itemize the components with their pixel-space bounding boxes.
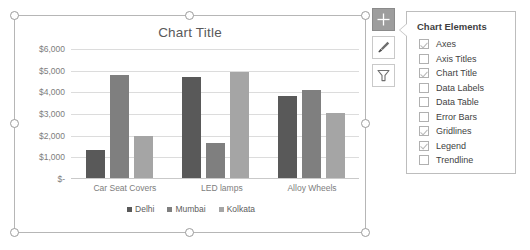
y-axis-tick-label: $3,000 [39, 109, 65, 119]
chart-object[interactable]: Chart Title $6,000$5,000$4,000$3,000$2,0… [14, 15, 366, 233]
bar-group [86, 49, 153, 178]
y-axis[interactable]: $6,000$5,000$4,000$3,000$2,000$1,000$- [15, 49, 69, 179]
chart-elements-button[interactable] [372, 8, 395, 31]
panel-callout-pointer [400, 24, 407, 36]
chart-element-label: Axes [436, 39, 456, 49]
x-axis-line [71, 178, 359, 179]
resize-handle-top-center[interactable] [185, 11, 194, 20]
resize-handle-top-left[interactable] [10, 11, 19, 20]
legend-swatch [167, 207, 172, 212]
chart-element-row[interactable]: Data Labels [419, 81, 515, 96]
chart-element-row[interactable]: Legend [419, 139, 515, 154]
chart-filters-button[interactable] [372, 64, 395, 87]
chart-element-label: Legend [436, 141, 466, 151]
y-axis-tick-label: $- [57, 174, 65, 184]
bar-group [182, 49, 249, 178]
x-axis-tick-label: LED lamps [201, 183, 243, 193]
resize-handle-top-right[interactable] [361, 11, 370, 20]
checkbox-data-labels[interactable] [419, 83, 429, 93]
legend-label: Delhi [135, 204, 154, 214]
funnel-icon [376, 68, 391, 83]
y-axis-tick-label: $6,000 [39, 44, 65, 54]
resize-handle-middle-left[interactable] [10, 119, 19, 128]
checkbox-legend[interactable] [419, 141, 429, 151]
resize-handle-middle-right[interactable] [361, 119, 370, 128]
bar-series-container [71, 49, 359, 178]
legend-item[interactable]: Kolkata [219, 204, 255, 214]
paintbrush-icon [376, 40, 391, 55]
checkbox-axis-titles[interactable] [419, 54, 429, 64]
chart-element-row[interactable]: Data Table [419, 95, 515, 110]
y-axis-tick-label: $1,000 [39, 152, 65, 162]
chart-element-label: Gridlines [436, 126, 472, 136]
legend-swatch [127, 207, 132, 212]
chart-element-label: Data Table [436, 97, 479, 107]
chart-element-label: Axis Titles [436, 54, 477, 64]
checkbox-data-table[interactable] [419, 97, 429, 107]
chart-element-row[interactable]: Gridlines [419, 124, 515, 139]
chart-element-label: Data Labels [436, 83, 484, 93]
chart-side-buttons [372, 8, 395, 92]
chart-element-row[interactable]: Axes [419, 37, 515, 52]
resize-handle-bottom-left[interactable] [10, 228, 19, 237]
chart-elements-list: AxesAxis TitlesChart TitleData LabelsDat… [407, 37, 515, 168]
checkbox-trendline[interactable] [419, 155, 429, 165]
bar[interactable] [182, 77, 201, 178]
bar[interactable] [326, 113, 345, 178]
chart-element-label: Chart Title [436, 68, 477, 78]
chart-element-row[interactable]: Trendline [419, 153, 515, 168]
chart-styles-button[interactable] [372, 36, 395, 59]
y-axis-tick-label: $2,000 [39, 131, 65, 141]
bar[interactable] [110, 75, 129, 178]
panel-heading: Chart Elements [407, 12, 515, 37]
chart-element-label: Trendline [436, 155, 473, 165]
chart-legend[interactable]: DelhiMumbaiKolkata [15, 204, 367, 214]
bar[interactable] [206, 143, 225, 178]
checkbox-gridlines[interactable] [419, 126, 429, 136]
bar[interactable] [302, 90, 321, 178]
legend-label: Mumbai [175, 204, 205, 214]
chart-elements-panel[interactable]: Chart Elements AxesAxis TitlesChart Titl… [406, 11, 516, 174]
x-axis[interactable]: Car Seat CoversLED lampsAlloy Wheels [71, 183, 359, 193]
resize-handle-bottom-center[interactable] [185, 228, 194, 237]
chart-element-row[interactable]: Axis Titles [419, 52, 515, 67]
chart-element-row[interactable]: Chart Title [419, 66, 515, 81]
checkbox-error-bars[interactable] [419, 112, 429, 122]
y-axis-tick-label: $4,000 [39, 87, 65, 97]
legend-item[interactable]: Delhi [127, 204, 154, 214]
checkbox-chart-title[interactable] [419, 68, 429, 78]
bar[interactable] [134, 136, 153, 178]
bar[interactable] [278, 96, 297, 178]
y-axis-tick-label: $5,000 [39, 66, 65, 76]
plot-wrapper: $6,000$5,000$4,000$3,000$2,000$1,000$- C… [15, 49, 367, 234]
legend-item[interactable]: Mumbai [167, 204, 205, 214]
checkbox-axes[interactable] [419, 39, 429, 49]
bar[interactable] [86, 150, 105, 178]
legend-label: Kolkata [227, 204, 255, 214]
plot-area[interactable] [71, 49, 359, 179]
chart-element-row[interactable]: Error Bars [419, 110, 515, 125]
resize-handle-bottom-right[interactable] [361, 228, 370, 237]
x-axis-tick-label: Car Seat Covers [93, 183, 156, 193]
chart-title[interactable]: Chart Title [15, 25, 365, 40]
bar-group [278, 49, 345, 178]
x-axis-tick-label: Alloy Wheels [287, 183, 336, 193]
plus-icon [376, 12, 391, 27]
chart-element-label: Error Bars [436, 112, 477, 122]
bar[interactable] [230, 72, 249, 178]
legend-swatch [219, 207, 224, 212]
